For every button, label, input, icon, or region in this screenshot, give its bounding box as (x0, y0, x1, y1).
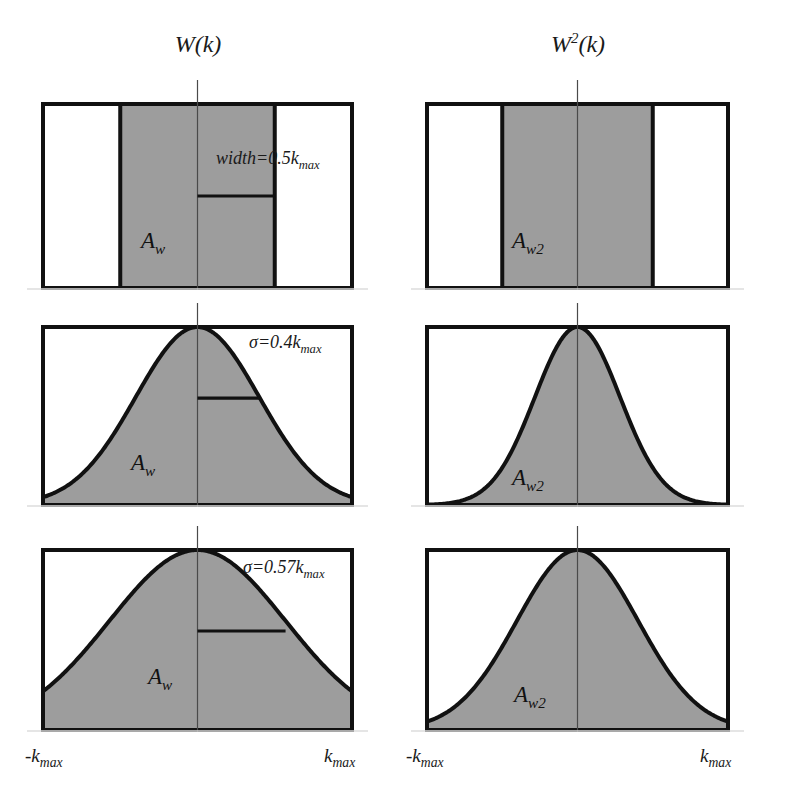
axis-tick-left-column1: -kmax (25, 745, 63, 771)
area-label-aw-row1: Aw (141, 228, 165, 258)
area-label-aw2-row3: Aw2 (514, 682, 546, 712)
column-title-w-text: W(k) (175, 31, 222, 57)
area-label-aw-row3: Aw (148, 664, 172, 694)
area-label-aw2-row1: Aw2 (512, 228, 544, 258)
annotation-sigma-057: σ=0.57kmax (243, 557, 325, 582)
annotation-sigma-04: σ=0.4kmax (249, 332, 322, 357)
area-label-aw-row2: Aw (131, 450, 155, 480)
axis-tick-right-column1: kmax (324, 745, 355, 771)
column-title-w2-text: W2(k) (551, 31, 605, 57)
axis-tick-right-column2: kmax (700, 745, 731, 771)
annotation-width-rect: width=0.5kmax (216, 148, 320, 173)
axis-tick-left-column2: -kmax (406, 745, 444, 771)
column-title-w: W(k) (123, 30, 273, 58)
window-function-figure (0, 0, 787, 807)
column-title-w2: W2(k) (503, 30, 653, 58)
area-label-aw2-row2: Aw2 (512, 465, 544, 495)
